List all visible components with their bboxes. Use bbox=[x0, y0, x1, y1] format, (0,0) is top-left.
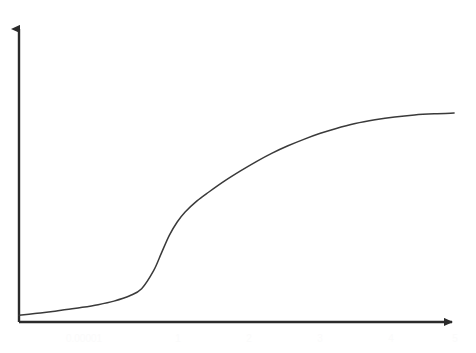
x-tick-label-0: 0.00001 bbox=[66, 333, 102, 345]
x-tick-label-2: 2 bbox=[246, 333, 252, 345]
x-tick-label-4: 4 bbox=[388, 333, 394, 345]
plot-area bbox=[0, 0, 476, 353]
x-tick-label-5: 5 bbox=[452, 333, 458, 345]
x-tick-label-1: 1 bbox=[175, 333, 181, 345]
chart-figure: 0.00001 1 2 3 4 5 bbox=[0, 0, 476, 353]
sigmoid-curve bbox=[19, 113, 454, 315]
x-tick-label-3: 3 bbox=[317, 333, 323, 345]
